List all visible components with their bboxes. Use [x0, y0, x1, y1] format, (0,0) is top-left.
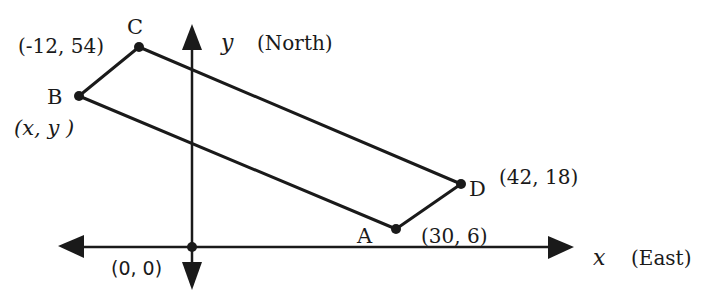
- point-b-label: B: [47, 85, 62, 109]
- point-c: [134, 42, 144, 52]
- y-axis-down-arrow-icon: [182, 262, 202, 290]
- point-a-label: A: [356, 224, 373, 248]
- point-c-label: C: [127, 15, 143, 39]
- x-axis-direction: (East): [631, 246, 691, 270]
- edge-c-d: [139, 47, 461, 184]
- y-axis-up-arrow-icon: [182, 24, 202, 50]
- point-a-coords: (30, 6): [421, 224, 488, 248]
- point-d-coords: (42, 18): [499, 165, 578, 189]
- origin-point: [187, 242, 197, 252]
- point-d-label: D: [469, 177, 486, 201]
- point-b-coords: (x, y ): [14, 116, 74, 140]
- x-axis-right-arrow-icon: [548, 236, 574, 259]
- point-d: [456, 179, 466, 189]
- x-axis: [58, 235, 574, 259]
- origin-label: (0, 0): [111, 257, 162, 279]
- x-axis-label: x: [593, 245, 606, 270]
- parallelogram: [79, 47, 461, 229]
- coordinate-diagram: C (-12, 54) B (x, y ) D (42, 18) A (30, …: [0, 0, 716, 296]
- edge-d-a: [396, 184, 461, 229]
- y-axis-direction: (North): [257, 31, 333, 55]
- x-axis-left-arrow-icon: [58, 235, 84, 258]
- edge-a-b: [79, 96, 396, 229]
- point-a: [391, 224, 401, 234]
- point-c-coords: (-12, 54): [18, 34, 104, 58]
- y-axis-label: y: [220, 30, 234, 55]
- point-b: [74, 91, 84, 101]
